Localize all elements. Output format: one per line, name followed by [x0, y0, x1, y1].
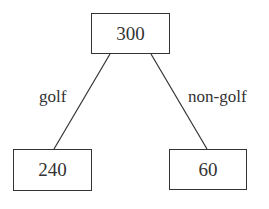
child-node-non-golf: 60 — [169, 149, 247, 190]
root-node: 300 — [91, 13, 170, 54]
child-node-golf: 240 — [13, 149, 92, 191]
non-golf-value: 60 — [199, 159, 218, 181]
edge-label-golf: golf — [39, 88, 66, 105]
edge-label-non-golf: non-golf — [188, 88, 247, 105]
root-value: 300 — [116, 23, 145, 45]
tree-diagram: 300 240 60 golf non-golf — [0, 0, 269, 209]
golf-value: 240 — [38, 159, 67, 181]
